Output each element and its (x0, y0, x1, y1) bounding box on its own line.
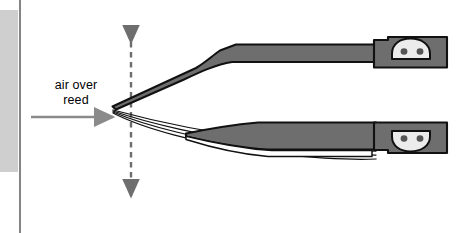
airflow-label-line-1: air over (34, 78, 118, 93)
upper-clamp-rivet-right (417, 48, 424, 54)
lower-clamp-plate (392, 131, 430, 152)
upper-reed-assembly (113, 37, 448, 110)
airflow-label-line-2: reed (34, 93, 118, 108)
upper-clamp-plate (392, 39, 430, 60)
upper-clamp-rivet-left (401, 48, 408, 54)
diagram-canvas: air over reed (0, 0, 463, 233)
reed-vibration-diagram (0, 0, 463, 233)
lower-clamp-rivet-left (401, 135, 408, 141)
lower-clamp-rivet-right (417, 135, 424, 141)
upper-reed-blade (113, 45, 377, 110)
airflow-label: air over reed (34, 78, 118, 108)
lower-reed-assembly (113, 110, 447, 159)
